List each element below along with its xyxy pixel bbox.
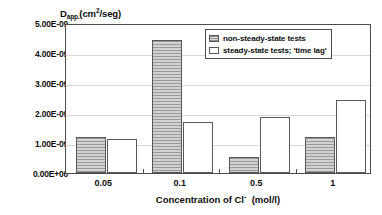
- legend-swatch-icon: [209, 47, 219, 54]
- x-axis-title-text: Concentration of Cl: [156, 194, 244, 205]
- y-axis-title-symbol: D: [60, 8, 67, 19]
- y-axis-tick-label: 4.00E-09: [8, 49, 68, 59]
- y-axis-title-unit-close: /seg): [99, 8, 121, 19]
- x-axis-title-unit: (mol/l): [252, 194, 281, 205]
- y-axis-title-subscript: app.: [67, 13, 80, 20]
- bar-0.1-series-0: [152, 40, 182, 174]
- legend-label: steady-state tests; 'time lag': [223, 46, 327, 55]
- y-axis-tick-label: 2.00E-09: [8, 109, 68, 119]
- legend-item-0: non-steady-state tests: [209, 32, 327, 44]
- y-axis-tick-label: 3.00E-09: [8, 79, 68, 89]
- y-axis-tick-label: 0.00E+00: [8, 169, 68, 179]
- x-axis-tick-label: 0.1: [173, 178, 186, 188]
- category-tick: [143, 169, 144, 173]
- chart-legend: non-steady-state testssteady-state tests…: [205, 29, 332, 59]
- gridline: [66, 115, 370, 116]
- bar-0.05-series-1: [107, 139, 137, 173]
- x-axis-title-superscript: -: [244, 193, 246, 200]
- y-axis-title-unit-open: (cm: [79, 8, 96, 19]
- bar-0.5-series-1: [260, 117, 290, 173]
- gridline: [66, 85, 370, 86]
- x-axis-tick-label: 0.5: [250, 178, 263, 188]
- category-tick: [296, 169, 297, 173]
- legend-swatch-icon: [209, 35, 219, 42]
- x-axis-title: Concentration of Cl- (mol/l): [65, 193, 371, 205]
- bar-0.5-series-0: [229, 157, 259, 174]
- category-tick: [219, 169, 220, 173]
- y-axis-tick-label: 1.00E-09: [8, 139, 68, 149]
- bar-0.1-series-1: [183, 122, 213, 173]
- bar-chart-figure: Dapp.(cm2/seg) 0.00E+001.00E-092.00E-093…: [0, 0, 382, 215]
- y-axis-title: Dapp.(cm2/seg): [60, 5, 121, 22]
- bar-1-series-0: [305, 137, 335, 173]
- legend-item-1: steady-state tests; 'time lag': [209, 44, 327, 56]
- x-axis-tick-label: 0.05: [94, 178, 112, 188]
- legend-label: non-steady-state tests: [223, 34, 306, 43]
- y-axis-tick-label: 5.00E-09: [8, 19, 68, 29]
- bar-0.05-series-0: [76, 137, 106, 173]
- x-axis-tick-label: 1: [330, 178, 335, 188]
- bar-1-series-1: [336, 100, 366, 173]
